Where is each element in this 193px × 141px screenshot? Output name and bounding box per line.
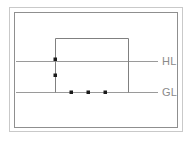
ground-level-label: GL bbox=[162, 87, 177, 98]
point-base-3 bbox=[104, 91, 108, 95]
point-base-1 bbox=[70, 91, 74, 95]
point-wall-lower bbox=[54, 74, 58, 78]
diagram-viewport: HL GL bbox=[0, 0, 193, 141]
diagram-canvas bbox=[0, 0, 193, 141]
measurement-points-group bbox=[54, 58, 108, 95]
reference-lines-group bbox=[16, 62, 158, 93]
high-level-label: HL bbox=[162, 56, 177, 67]
point-base-2 bbox=[87, 91, 91, 95]
structure-outline-group bbox=[56, 39, 129, 93]
point-wall-upper bbox=[54, 58, 58, 62]
